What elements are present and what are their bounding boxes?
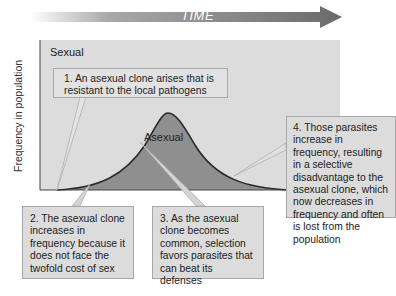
asexual-label: Asexual — [144, 131, 183, 143]
callout-3: 3. As the asexual clone becomes common, … — [152, 206, 264, 279]
callout-2: 2. The asexual clone increases in freque… — [22, 206, 134, 279]
time-label: TIME — [181, 8, 214, 23]
callout-1: 1. An asexual clone arises that is resis… — [53, 68, 228, 98]
callout-4: 4. Those parasites increase in frequency… — [286, 116, 396, 218]
sexual-label: Sexual — [50, 46, 84, 58]
y-axis-label: Frequency in population — [12, 60, 24, 172]
